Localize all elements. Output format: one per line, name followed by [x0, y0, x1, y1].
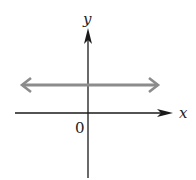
- x-axis-label: x: [179, 104, 188, 122]
- y-axis-label: y: [82, 10, 92, 28]
- x-axis: [15, 109, 173, 117]
- horizontal-line: [22, 78, 158, 92]
- coordinate-diagram: y x 0: [0, 0, 196, 180]
- origin-label: 0: [75, 119, 85, 137]
- y-axis: [84, 28, 92, 178]
